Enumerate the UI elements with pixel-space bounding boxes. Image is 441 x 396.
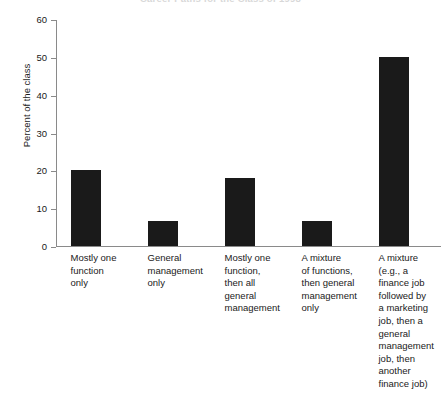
x-axis-line — [56, 246, 441, 247]
y-tick-label: 50 — [36, 52, 47, 63]
x-category-label: Mostly one function only — [71, 252, 142, 290]
y-tick-label: 10 — [36, 203, 47, 214]
x-axis-category-labels: Mostly one function onlyGeneral manageme… — [56, 252, 441, 396]
y-tick-mark — [51, 134, 56, 135]
bar — [71, 170, 101, 246]
y-tick: 0 — [24, 247, 56, 248]
y-tick-label: 60 — [36, 14, 47, 25]
y-tick-mark — [51, 209, 56, 210]
x-category-label: Mostly one function, then all general ma… — [225, 252, 296, 315]
y-tick: 10 — [24, 209, 56, 210]
bar — [225, 178, 255, 246]
y-tick: 50 — [24, 58, 56, 59]
y-tick-label: 40 — [36, 90, 47, 101]
y-tick-label: 20 — [36, 165, 47, 176]
y-tick: 40 — [24, 96, 56, 97]
y-tick-label: 30 — [36, 128, 47, 139]
y-tick-mark — [51, 20, 56, 21]
bar — [148, 221, 178, 246]
y-tick: 20 — [24, 171, 56, 172]
bar-chart: Career Paths for the Class of 1998 Perce… — [0, 0, 441, 396]
bar — [379, 57, 409, 246]
y-tick-mark — [51, 58, 56, 59]
bar — [302, 221, 332, 246]
x-category-label: A mixture (e.g., a finance job followed … — [379, 252, 441, 391]
y-axis-line — [56, 20, 57, 247]
y-tick-label: 0 — [42, 241, 47, 252]
x-category-label: General management only — [148, 252, 219, 290]
y-axis-title: Percent of the class — [21, 36, 32, 176]
chart-title: Career Paths for the Class of 1998 — [0, 0, 441, 3]
x-category-label: A mixture of functions, then general man… — [302, 252, 373, 315]
plot-area: 0102030405060 — [56, 20, 441, 247]
y-tick: 60 — [24, 20, 56, 21]
y-tick-mark — [51, 96, 56, 97]
y-tick: 30 — [24, 134, 56, 135]
y-tick-mark — [51, 247, 56, 248]
y-tick-mark — [51, 171, 56, 172]
